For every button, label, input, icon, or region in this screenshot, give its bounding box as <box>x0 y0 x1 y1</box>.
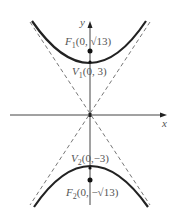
hyperbola-diagram <box>0 0 179 217</box>
vertex-v1-label: V1(0, 3) <box>72 66 107 80</box>
y-axis-label: y <box>80 17 85 28</box>
x-axis-label: x <box>162 118 167 129</box>
vertex-v2-label: V2(0,−3) <box>71 153 109 167</box>
y-axis-arrow-icon <box>88 21 93 28</box>
focus-f2-dot <box>88 178 93 183</box>
focus-f2-label: F2(0, −√13) <box>66 187 118 201</box>
focus-f1-label: F1(0, √13) <box>65 36 111 50</box>
vertex-v1-dot <box>88 60 91 63</box>
origin-mark <box>89 113 92 117</box>
